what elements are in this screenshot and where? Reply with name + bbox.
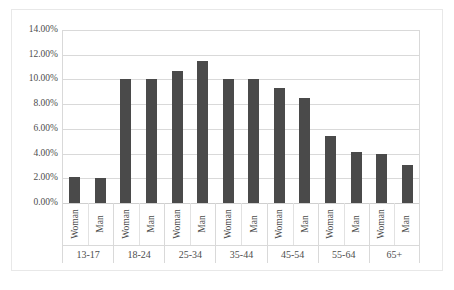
bar [299, 98, 310, 203]
x-axis-subgroup: Woman [63, 203, 88, 245]
x-axis-labels: WomanMan13-17WomanMan18-24WomanMan25-34W… [62, 203, 420, 263]
x-axis-group: WomanMan45-54 [267, 203, 318, 263]
x-axis-subgroup: Man [344, 203, 369, 245]
y-axis-tick-label: 8.00% [0, 99, 58, 109]
x-axis-group-label: 25-34 [165, 247, 215, 263]
y-axis-tick-label: 0.00% [0, 198, 58, 208]
x-axis-subgroup: Woman [319, 203, 344, 245]
bar [172, 71, 183, 203]
bar [95, 178, 106, 203]
x-axis-group: WomanMan55-64 [318, 203, 369, 263]
x-axis-group-divider [63, 245, 113, 246]
x-axis-subgroup: Woman [165, 203, 190, 245]
x-axis-sub-label: Man [96, 215, 106, 232]
y-axis-tick-label: 4.00% [0, 149, 58, 159]
bar-chart: 14.00%12.00%10.00%8.00%6.00%4.00%2.00%0.… [0, 0, 454, 290]
x-axis-group-label: 45-54 [268, 247, 318, 263]
x-axis-sub-label: Man [199, 215, 209, 232]
x-axis-group-label: 13-17 [63, 247, 113, 263]
bar [69, 177, 80, 203]
x-axis-group-divider [165, 245, 215, 246]
y-axis-labels: 14.00%12.00%10.00%8.00%6.00%4.00%2.00%0.… [0, 30, 58, 203]
x-axis-subgroup: Man [190, 203, 215, 245]
bar [120, 79, 131, 203]
x-axis-sub-label: Man [352, 215, 362, 232]
x-axis-sub-label: Woman [173, 209, 183, 238]
x-axis-group-divider [114, 245, 164, 246]
x-axis-subgroup: Woman [114, 203, 139, 245]
x-axis-subgroup: Man [241, 203, 266, 245]
x-axis-group-divider [319, 245, 369, 246]
bar [146, 79, 157, 203]
x-axis-group-label: 35-44 [216, 247, 266, 263]
x-axis-group-label: 18-24 [114, 247, 164, 263]
x-axis-group-label: 65+ [370, 247, 419, 263]
bar [325, 136, 336, 203]
bar-series-container [62, 30, 420, 203]
x-axis-group-divider [370, 245, 419, 246]
x-axis-sub-label: Man [402, 215, 412, 232]
x-axis-sub-label: Man [250, 215, 260, 232]
x-axis-group: WomanMan35-44 [215, 203, 266, 263]
x-axis-subgroup: Woman [370, 203, 395, 245]
x-axis-group-label: 55-64 [319, 247, 369, 263]
bar [248, 79, 259, 203]
x-axis-group: WomanMan65+ [369, 203, 420, 263]
x-axis-sub-label: Man [301, 215, 311, 232]
x-axis-sub-label: Woman [122, 209, 132, 238]
y-axis-tick-label: 14.00% [0, 25, 58, 35]
y-axis-tick-label: 10.00% [0, 74, 58, 84]
bar [274, 88, 285, 203]
x-axis-group-divider [268, 245, 318, 246]
x-axis-subgroup: Man [139, 203, 164, 245]
x-axis-sub-label: Woman [377, 209, 387, 238]
x-axis-sub-label: Woman [71, 209, 81, 238]
x-axis-group-divider [216, 245, 266, 246]
x-axis-sub-label: Woman [326, 209, 336, 238]
x-axis-subgroup: Woman [268, 203, 293, 245]
y-axis-tick-label: 12.00% [0, 50, 58, 60]
x-axis-sub-label: Woman [224, 209, 234, 238]
y-axis-tick-label: 6.00% [0, 124, 58, 134]
x-axis-subgroup: Man [88, 203, 113, 245]
x-axis-group: WomanMan18-24 [113, 203, 164, 263]
x-axis-subgroup: Woman [216, 203, 241, 245]
y-axis-tick-label: 2.00% [0, 173, 58, 183]
bar [376, 154, 387, 203]
x-axis-group: WomanMan13-17 [62, 203, 113, 263]
x-axis-subgroup: Man [394, 203, 419, 245]
bar [223, 79, 234, 203]
x-axis-subgroup: Man [293, 203, 318, 245]
bar [351, 152, 362, 203]
bar [402, 165, 413, 203]
bar [197, 61, 208, 203]
x-axis-sub-label: Man [147, 215, 157, 232]
x-axis-sub-label: Woman [275, 209, 285, 238]
x-axis-group: WomanMan25-34 [164, 203, 215, 263]
